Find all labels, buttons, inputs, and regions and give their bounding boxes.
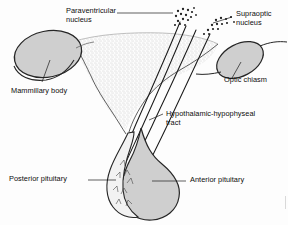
label-hypothalamic-hypophyseal-tract: Hypothalamic-hypophyseal tract xyxy=(166,110,255,127)
label-mammillary-body: Mammillary body xyxy=(11,87,67,96)
leader-tract xyxy=(149,114,163,120)
label-paraventricular-nucleus: Paraventricular nucleus xyxy=(66,7,116,24)
supraoptic-nucleus xyxy=(203,16,235,35)
figure-canvas: Paraventricular nucleus Supraoptic nucle… xyxy=(0,0,288,225)
mammillary-body xyxy=(10,24,94,83)
label-anterior-pituitary: Anterior pituitary xyxy=(190,176,244,185)
label-optic-chiasm: Optic chiasm xyxy=(224,76,267,85)
label-posterior-pituitary: Posterior pituitary xyxy=(9,175,67,184)
paraventricular-nucleus xyxy=(174,7,197,26)
label-supraoptic-nucleus: Supraoptic nucleus xyxy=(236,10,272,27)
